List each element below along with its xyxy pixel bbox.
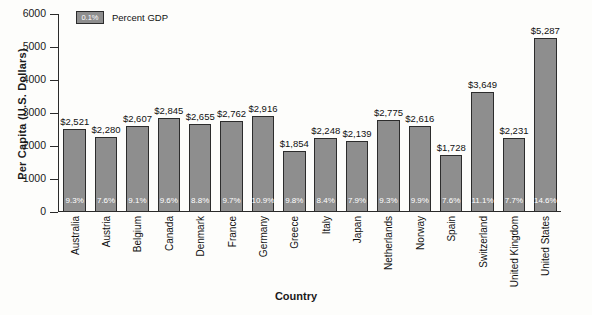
legend: 0.1% Percent GDP [76,11,168,24]
bar[interactable]: 10.9% [252,116,275,212]
legend-swatch-percent-gdp: 0.1% [76,11,104,24]
bar-slot[interactable]: 9.1%$2,607 [126,14,149,212]
x-axis-category-label: Denmark [189,216,212,288]
bar[interactable]: 8.8% [189,124,212,212]
bar[interactable]: 7.6% [95,137,118,212]
bar-value-label: $2,845 [154,105,183,116]
bar[interactable]: 7.9% [346,141,369,212]
y-axis-tick: 1000 [50,179,58,180]
bar-percent-label: 8.8% [191,196,209,205]
bar-slot[interactable]: 8.4%$2,248 [314,14,337,212]
bar-slot[interactable]: 7.6%$1,728 [440,14,463,212]
x-axis-category-text: Germany [257,216,268,257]
y-axis-tick: 2000 [50,146,58,147]
y-axis-tick: 3000 [50,113,58,114]
x-axis-category-label: Switzerland [471,216,494,288]
y-axis-tick-label: 4000 [23,73,46,85]
bar-percent-label: 11.1% [472,196,494,205]
bar-slot[interactable]: 9.3%$2,521 [63,14,86,212]
bar-percent-label: 10.9% [252,196,275,205]
bar-slot[interactable]: 10.9%$2,916 [252,14,275,212]
bar-slot[interactable]: 8.8%$2,655 [189,14,212,212]
y-axis-tick-label: 2000 [23,139,46,151]
x-axis-category-labels: AustraliaAustriaBelgiumCanadaDenmarkFran… [59,216,561,288]
bar-chart-figure: Per Capita (U.S. Dollars) 01000200030004… [0,0,592,315]
bar-slot[interactable]: 9.8%$1,854 [283,14,306,212]
x-axis-category-text: Switzerland [477,216,488,268]
x-axis-category-text: Austria [101,216,112,247]
bar-slot[interactable]: 9.6%$2,845 [158,14,181,212]
x-axis-category-text: Australia [69,216,80,255]
bar-slot[interactable]: 9.3%$2,775 [377,14,400,212]
x-axis-category-text: Netherlands [383,216,394,270]
bar-slot[interactable]: 14.6%$5,287 [534,14,557,212]
x-axis-category-text: United Kingdom [508,216,519,287]
bar[interactable]: 11.1% [471,92,494,212]
bar-value-label: $1,854 [280,138,309,149]
x-axis-category-label: United Kingdom [503,216,526,288]
bar[interactable]: 9.3% [377,120,400,212]
bar[interactable]: 8.4% [314,138,337,212]
x-axis-category-text: Norway [414,216,425,250]
x-axis-category-label: Australia [63,216,86,288]
x-axis-category-text: Spain [446,216,457,242]
bar[interactable]: 9.7% [220,121,243,212]
legend-swatch-text: 0.1% [81,14,98,22]
y-axis-tick: 4000 [50,80,58,81]
bar-percent-label: 8.4% [317,196,335,205]
y-axis-tick-label: 5000 [23,40,46,52]
x-axis-category-text: United States [540,216,551,276]
bar-percent-label: 9.6% [160,196,178,205]
bar-value-label: $2,762 [217,108,246,119]
bar-percent-label: 9.3% [379,196,397,205]
bar-value-label: $2,231 [499,125,528,136]
x-axis-category-label: Netherlands [377,216,400,288]
bar-value-label: $2,248 [311,125,340,136]
x-axis-category-label: Canada [158,216,181,288]
bar-series-percent-gdp: 9.3%$2,5217.6%$2,2809.1%$2,6079.6%$2,845… [59,14,561,212]
bar-slot[interactable]: 7.6%$2,280 [95,14,118,212]
bar-slot[interactable]: 7.9%$2,139 [346,14,369,212]
bar[interactable]: 7.7% [503,138,526,212]
bar-slot[interactable]: 7.7%$2,231 [503,14,526,212]
bar-slot[interactable]: 9.7%$2,762 [220,14,243,212]
bar-value-label: $2,280 [92,124,121,135]
x-axis-category-label: Spain [440,216,463,288]
bar-value-label: $2,607 [123,113,152,124]
bar-value-label: $5,287 [531,25,560,36]
y-axis-tick: 6000 [50,14,58,15]
bar-percent-label: 7.6% [442,196,460,205]
bar[interactable]: 9.8% [283,151,306,212]
bar-value-label: $2,916 [248,103,277,114]
x-axis-category-label: Japan [346,216,369,288]
bar-value-label: $1,728 [437,142,466,153]
x-axis-category-text: Italy [320,216,331,234]
y-axis-tick-label: 1000 [23,172,46,184]
bar-value-label: $2,775 [374,107,403,118]
bar-percent-label: 14.6% [534,196,557,205]
bar[interactable]: 9.6% [158,118,181,212]
bar-percent-label: 7.6% [97,196,115,205]
bar-slot[interactable]: 9.9%$2,616 [409,14,432,212]
bar-value-label: $2,655 [186,111,215,122]
x-axis-category-label: France [220,216,243,288]
bar-slot[interactable]: 11.1%$3,649 [471,14,494,212]
y-axis-tick-label: 6000 [23,7,46,19]
bar-percent-label: 9.8% [285,196,303,205]
x-axis-category-text: Canada [163,216,174,251]
bar[interactable]: 7.6% [440,155,463,212]
bar-value-label: $2,616 [405,113,434,124]
bar-percent-label: 9.1% [128,196,146,205]
y-axis-tick-label: 0 [40,205,46,217]
x-axis-category-label: Italy [314,216,337,288]
bar[interactable]: 9.1% [126,126,149,212]
x-axis-title: Country [0,290,592,302]
bar[interactable]: 9.9% [409,126,432,212]
bar[interactable]: 14.6% [534,38,557,212]
x-axis-category-label: United States [534,216,557,288]
bar[interactable]: 9.3% [63,129,86,212]
bar-percent-label: 7.7% [505,196,523,205]
bar-percent-label: 7.9% [348,196,366,205]
x-axis-category-text: Denmark [195,216,206,257]
bar-value-label: $3,649 [468,79,497,90]
